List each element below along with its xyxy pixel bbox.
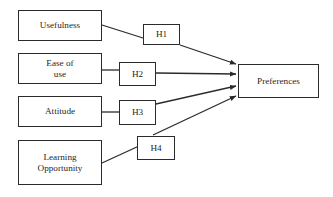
- outcome-box-preferences[interactable]: Preferences: [238, 64, 319, 98]
- connector-h1-to-preferences: [180, 45, 236, 64]
- hypothesis-box-h1[interactable]: H1: [143, 24, 180, 45]
- hypothesis-label-h2: H2: [129, 69, 146, 80]
- construct-label-ease-of-use: Ease of use: [43, 58, 76, 80]
- research-model-diagram: Usefulness Ease of use Attitude Learning…: [0, 0, 333, 197]
- construct-box-learning-opportunity[interactable]: Learning Opportunity: [18, 140, 102, 185]
- construct-box-ease-of-use[interactable]: Ease of use: [18, 53, 102, 84]
- connector-usefulness-to-h1: [102, 25, 143, 38]
- connector-h2-to-preferences: [156, 73, 236, 74]
- construct-label-learning-opportunity: Learning Opportunity: [35, 152, 86, 174]
- construct-box-attitude[interactable]: Attitude: [18, 96, 102, 127]
- hypothesis-label-h1: H1: [153, 29, 170, 40]
- construct-box-usefulness[interactable]: Usefulness: [18, 10, 102, 41]
- outcome-label-preferences: Preferences: [254, 76, 303, 87]
- hypothesis-box-h3[interactable]: H3: [119, 100, 156, 125]
- connector-learning-opportunity-to-h4: [102, 146, 139, 163]
- construct-label-attitude: Attitude: [42, 106, 78, 117]
- hypothesis-label-h4: H4: [147, 143, 164, 154]
- construct-label-usefulness: Usefulness: [37, 20, 83, 31]
- hypothesis-box-h2[interactable]: H2: [119, 62, 156, 86]
- hypothesis-box-h4[interactable]: H4: [137, 136, 175, 160]
- hypothesis-label-h3: H3: [129, 107, 146, 118]
